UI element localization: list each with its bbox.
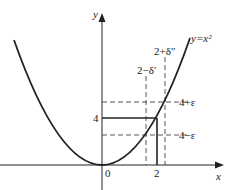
- diagram-canvas: y x y=x² 0 2 4 4+ε 4−ε 2−δ′ 2+δ″: [0, 0, 229, 190]
- delta-right-label: 2+δ″: [154, 45, 175, 57]
- x-two-label: 2: [154, 167, 160, 179]
- delta-left-label: 2−δ′: [137, 64, 156, 76]
- x-axis-arrow-icon: [215, 162, 224, 169]
- epsilon-delta-diagram: y x y=x² 0 2 4 4+ε 4−ε 2−δ′ 2+δ″: [0, 0, 229, 190]
- y-four-label: 4: [93, 112, 99, 124]
- y-axis-label: y: [92, 8, 98, 20]
- upper-epsilon-label: 4+ε: [179, 96, 196, 108]
- curve-label: y=x²: [190, 32, 212, 44]
- y-axis-arrow-icon: [99, 13, 106, 22]
- x-axis-label: x: [215, 170, 221, 182]
- origin-label: 0: [105, 167, 111, 179]
- lower-epsilon-label: 4−ε: [179, 129, 196, 141]
